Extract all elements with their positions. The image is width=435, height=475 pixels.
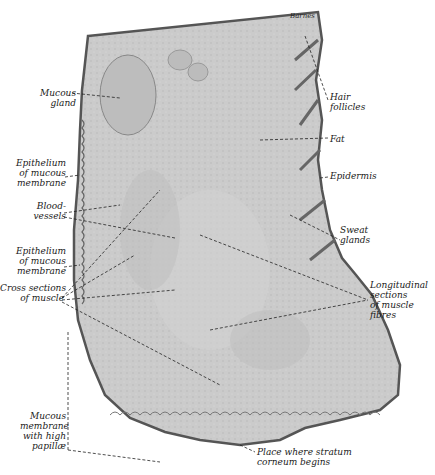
label-mucous-gland: Mucous gland [30, 88, 76, 108]
label-stratum-corneum: Place where stratum corneum begins [257, 447, 352, 467]
label-fat: Fat [330, 134, 345, 144]
label-epidermis: Epidermis [330, 171, 377, 181]
label-epithelium-upper: Epithelium of mucous membrane [4, 158, 66, 188]
label-mucous-membrane-papillae: Mucous membrane with high papillæ [20, 411, 66, 451]
label-sweat-glands: Sweat glands [340, 225, 370, 245]
lip-section-figure: Barnes Mucous gland Epithelium of mucous… [0, 0, 435, 475]
label-blood-vessels: Blood- vessels [26, 201, 66, 221]
label-hair-follicles: Hair follicles [330, 92, 365, 112]
label-cross-sections-muscle: Cross sections of muscle [0, 283, 64, 303]
label-epithelium-lower: Epithelium of mucous membrane [4, 246, 66, 276]
label-longitudinal-sections: Longitudinal sections of muscle fibres [370, 280, 428, 320]
artist-signature: Barnes [290, 12, 315, 20]
